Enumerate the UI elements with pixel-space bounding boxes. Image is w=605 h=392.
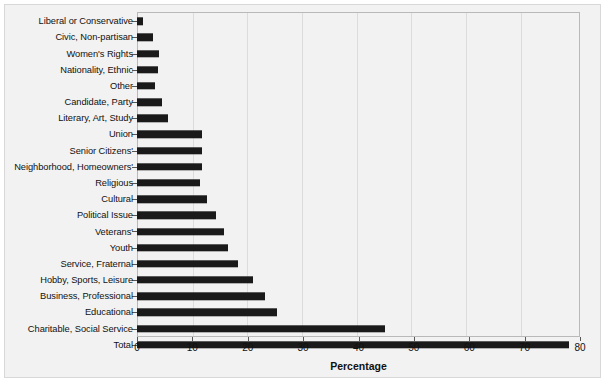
bar [137,325,385,332]
x-tick-label: 50 [408,342,419,353]
bar-category-label: Senior Citizens' [70,146,134,156]
bar-row: Service, Fraternal [0,256,605,272]
x-tick-label: 60 [464,342,475,353]
x-tick-label: 10 [187,342,198,353]
bar-row: Religious [0,175,605,191]
x-tick-mark [248,337,249,341]
bar-category-label: Charitable, Social Service [28,324,133,334]
bar-row: Union [0,126,605,142]
bar-category-label: Political Issue [77,210,133,220]
x-tick-mark [303,337,304,341]
bar-category-label: Religious [95,178,133,188]
bar-category-label: Women's Rights [66,49,133,59]
x-tick-label: 80 [574,342,585,353]
bar [137,131,202,138]
bar [137,212,216,219]
bar-category-label: Nationality, Ethnic [60,65,133,75]
bar-category-label: Business, Professional [40,291,133,301]
bar-category-label: Hobby, Sports, Leisure [40,275,133,285]
bar-row: Charitable, Social Service [0,320,605,336]
bar-row: Civic, Non-partisan [0,29,605,45]
bar-row: Candidate, Party [0,94,605,110]
bar [137,228,224,235]
bar-rows: Liberal or ConservativeCivic, Non-partis… [0,0,605,392]
x-axis-title: Percentage [137,360,580,372]
bar-row: Business, Professional [0,288,605,304]
bar [137,292,265,299]
bar [137,244,228,251]
bar-row: Women's Rights [0,46,605,62]
x-tick-label: 40 [353,342,364,353]
bar [137,98,162,105]
bar-category-label: Other [110,81,133,91]
x-tick-mark [469,337,470,341]
x-tick-mark [359,337,360,341]
bar-category-label: Union [109,129,133,139]
bar [137,195,207,202]
bar-category-label: Youth [110,243,133,253]
bar-category-label: Liberal or Conservative [39,16,133,26]
bar-category-label: Civic, Non-partisan [55,32,133,42]
bar-category-label: Service, Fraternal [61,259,133,269]
x-tick-mark [580,337,581,341]
bar [137,147,202,154]
bar [137,34,153,41]
bar [137,66,158,73]
bar-category-label: Literary, Art, Study [58,113,133,123]
x-tick-mark [525,337,526,341]
bar-row: Literary, Art, Study [0,110,605,126]
bar-row: Political Issue [0,207,605,223]
bar-row: Veterans' [0,223,605,239]
bar-chart: Liberal or ConservativeCivic, Non-partis… [0,0,605,392]
x-axis: 01020304050607080 [0,337,605,359]
bar-row: Other [0,78,605,94]
bar [137,50,159,57]
x-tick-mark [414,337,415,341]
bar-row: Youth [0,240,605,256]
bar-row: Hobby, Sports, Leisure [0,272,605,288]
bar [137,260,238,267]
bar-category-label: Cultural [101,194,133,204]
bar [137,276,253,283]
bar-category-label: Neighborhood, Homeowners' [14,162,133,172]
bar-row: Neighborhood, Homeowners' [0,159,605,175]
x-tick-label: 20 [242,342,253,353]
bar-row: Nationality, Ethnic [0,62,605,78]
x-tick-label: 30 [298,342,309,353]
x-tick-label: 70 [519,342,530,353]
x-tick-mark [137,337,138,341]
bar-row: Cultural [0,191,605,207]
bar-category-label: Educational [85,307,133,317]
bar [137,82,155,89]
bar-category-label: Veterans' [95,227,133,237]
bar [137,179,200,186]
bar [137,18,143,25]
bar [137,115,168,122]
bar-row: Educational [0,304,605,320]
bar [137,309,277,316]
x-tick-mark [192,337,193,341]
bar-row: Liberal or Conservative [0,13,605,29]
bar [137,163,202,170]
bar-category-label: Candidate, Party [65,97,133,107]
x-tick-label: 0 [134,342,140,353]
bar-row: Senior Citizens' [0,143,605,159]
